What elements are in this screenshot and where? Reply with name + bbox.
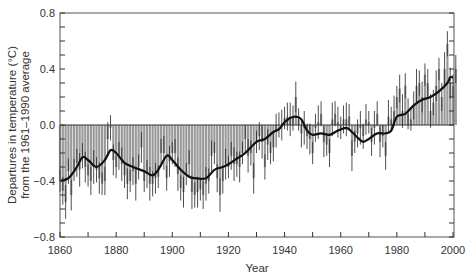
x-tick-label: 1920 bbox=[216, 244, 240, 256]
x-tick-label: 2000 bbox=[441, 244, 465, 256]
y-tick-label: −0.8 bbox=[33, 231, 55, 243]
x-tick-label: 1960 bbox=[328, 244, 352, 256]
y-axis-title-line1: Departures in temperature (°C) bbox=[6, 46, 18, 204]
y-tick-label: 0.0 bbox=[40, 119, 55, 131]
x-tick-label: 1940 bbox=[272, 244, 296, 256]
x-axis-ticks: 18601880190019201940196019802000 bbox=[48, 232, 465, 256]
x-tick-label: 1980 bbox=[385, 244, 409, 256]
annual-anomaly-bars bbox=[59, 44, 457, 202]
y-axis-title-line2: from the 1961–1990 average bbox=[19, 51, 31, 199]
temperature-anomaly-chart: 0.80.40.0−0.4−0.8 1860188019001920194019… bbox=[0, 0, 468, 280]
x-tick-label: 1880 bbox=[104, 244, 128, 256]
y-tick-label: 0.8 bbox=[40, 7, 55, 19]
y-tick-label: −0.4 bbox=[33, 175, 55, 187]
x-tick-label: 1860 bbox=[48, 244, 72, 256]
x-axis-title: Year bbox=[245, 262, 268, 274]
y-tick-label: 0.4 bbox=[40, 63, 55, 75]
x-tick-label: 1900 bbox=[160, 244, 184, 256]
